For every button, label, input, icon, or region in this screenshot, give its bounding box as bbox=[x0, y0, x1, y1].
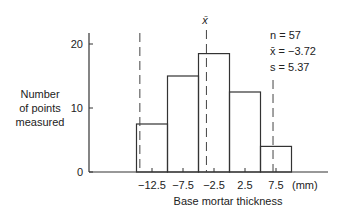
histogram-chart: Number of points measured 01020 −12.5−7.… bbox=[0, 0, 346, 218]
x-tick-label: 7.5 bbox=[268, 179, 283, 191]
histogram-bars bbox=[137, 54, 292, 172]
y-tick-label: 10 bbox=[71, 102, 83, 114]
y-axis-label-line3: measured bbox=[16, 116, 65, 128]
annotation-n: n = 57 bbox=[270, 29, 301, 41]
reference-lines bbox=[140, 30, 273, 172]
y-tick-label: 0 bbox=[77, 166, 83, 178]
annotation-mean: x̄ = −3.72 bbox=[270, 45, 316, 57]
y-axis-label-line1: Number bbox=[20, 88, 59, 100]
x-tick-label: −2.5 bbox=[203, 179, 225, 191]
x-tick-label: 2.5 bbox=[237, 179, 252, 191]
histogram-bar bbox=[199, 54, 230, 172]
histogram-bar bbox=[168, 76, 199, 172]
x-axis-label: Base mortar thickness bbox=[174, 195, 283, 207]
y-ticks: 01020 bbox=[71, 38, 93, 178]
annotation-s: s = 5.37 bbox=[270, 61, 309, 73]
mean-line-label: x̄ bbox=[201, 14, 208, 26]
x-axis-unit: (mm) bbox=[292, 179, 318, 191]
y-tick-label: 20 bbox=[71, 38, 83, 50]
x-tick-label: −7.5 bbox=[172, 179, 194, 191]
histogram-bar bbox=[137, 124, 168, 172]
x-tick-label: −12.5 bbox=[138, 179, 166, 191]
histogram-bar bbox=[230, 92, 261, 172]
y-axis-label-line2: of points bbox=[19, 102, 61, 114]
